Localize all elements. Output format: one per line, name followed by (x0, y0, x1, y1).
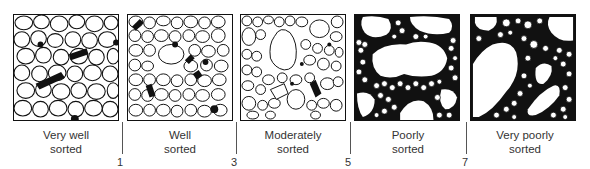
panel-poorly-sorted (354, 14, 460, 121)
label-line-2: sorted (465, 142, 585, 156)
panel-very-well-sorted (13, 14, 119, 121)
label-line-1: Poorly (348, 128, 468, 142)
label-line-2: sorted (348, 142, 468, 156)
label-line-2: sorted (233, 142, 353, 156)
label-line-1: Very well (6, 128, 126, 142)
label-line-1: Moderately (233, 128, 353, 142)
grain-texture-very-well-sorted (14, 15, 118, 120)
label-moderately-sorted: Moderately sorted (233, 128, 353, 156)
label-very-poorly-sorted: Very poorly sorted (465, 128, 585, 156)
label-very-well-sorted: Very well sorted (6, 128, 126, 156)
boundary-value-1: 1 (117, 156, 123, 168)
label-line-2: sorted (120, 142, 240, 156)
label-well-sorted: Well sorted (120, 128, 240, 156)
label-line-2: sorted (6, 142, 126, 156)
panel-very-poorly-sorted (470, 14, 576, 121)
grain-texture-poorly-sorted (355, 15, 459, 120)
grain-texture-moderately-sorted (241, 15, 345, 120)
panel-well-sorted (127, 14, 233, 121)
panel-moderately-sorted (240, 14, 346, 121)
label-line-1: Well (120, 128, 240, 142)
grain-texture-well-sorted (128, 15, 232, 120)
label-poorly-sorted: Poorly sorted (348, 128, 468, 156)
boundary-value-7: 7 (462, 156, 468, 168)
grain-texture-very-poorly-sorted (471, 15, 575, 120)
boundary-value-5: 5 (345, 156, 351, 168)
boundary-value-3: 3 (231, 156, 237, 168)
label-line-1: Very poorly (465, 128, 585, 142)
